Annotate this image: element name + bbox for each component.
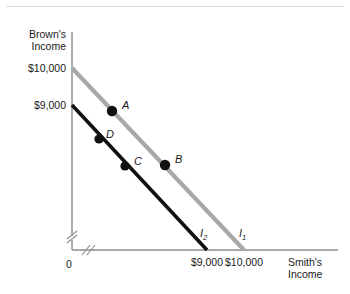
data-point-b bbox=[160, 160, 170, 170]
curve-i2 bbox=[72, 105, 207, 250]
curve-label-i2: I2 bbox=[200, 227, 207, 242]
x-axis-title: Smith's Income bbox=[288, 256, 322, 280]
curve-label-i1-sub: 1 bbox=[242, 233, 246, 242]
x-tick-label-10000: $10,000 bbox=[212, 256, 276, 268]
data-point-label-a: A bbox=[122, 99, 129, 111]
curve-label-i1: I1 bbox=[239, 227, 246, 242]
curve-i1 bbox=[72, 68, 244, 250]
y-tick-label-10000: $10,000 bbox=[16, 62, 66, 74]
income-distribution-chart: Brown's Income $10,000 $9,000 0 $9,000 $… bbox=[0, 0, 350, 294]
data-point-label-c: C bbox=[134, 155, 142, 167]
data-point-a bbox=[107, 106, 117, 116]
y-axis-title: Brown's Income bbox=[14, 28, 66, 52]
x-axis-title-line1: Smith's bbox=[288, 256, 322, 268]
y-tick-label-9000: $9,000 bbox=[16, 99, 66, 111]
curve-label-i2-sub: 2 bbox=[203, 233, 207, 242]
data-point-label-b: B bbox=[175, 153, 182, 165]
y-axis-title-line2: Income bbox=[14, 40, 66, 52]
data-point-c bbox=[120, 161, 129, 170]
origin-label: 0 bbox=[66, 258, 72, 270]
data-point-d bbox=[94, 134, 103, 143]
y-axis-title-line1: Brown's bbox=[14, 28, 66, 40]
data-point-label-d: D bbox=[106, 128, 114, 140]
x-axis-title-line2: Income bbox=[288, 268, 322, 280]
